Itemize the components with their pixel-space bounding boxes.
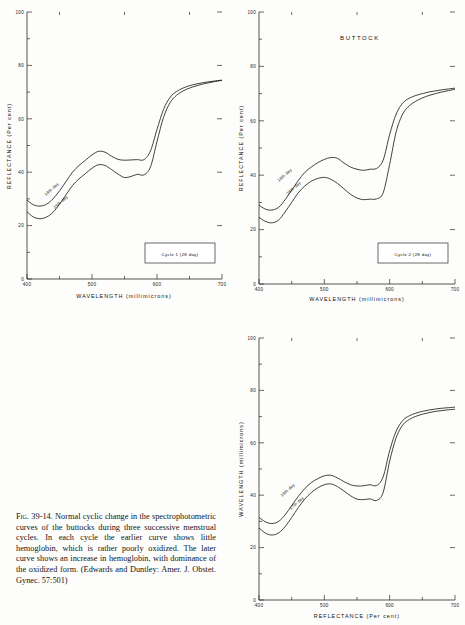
plot-frame xyxy=(259,338,455,600)
x-tick-label: 500 xyxy=(320,287,329,292)
chart-panel-cycle-1: 020406080100 400500600700 WAVELENGTH (mi… xyxy=(0,0,232,312)
curve-25th-day xyxy=(259,89,455,223)
y-axis-title: WAVELENGTH (millimicrons) xyxy=(238,421,244,516)
legend-label: Cycle 1 (28 day) xyxy=(162,252,199,257)
x-tick-label: 700 xyxy=(451,287,460,292)
x-tick-label: 600 xyxy=(385,287,394,292)
y-axis-title: REFLECTANCE (Per cent) xyxy=(238,105,244,191)
y-tick-label: 80 xyxy=(18,63,24,68)
legend-label: Cycle 2 (28 day) xyxy=(395,252,432,257)
x-tick-label: 600 xyxy=(153,282,162,287)
y-tick-label: 40 xyxy=(250,493,256,498)
y-tick-label: 100 xyxy=(15,10,24,15)
y-tick-label: 0 xyxy=(253,598,256,603)
curve-labels: 18th day17th day xyxy=(279,482,305,511)
curve-25th-day xyxy=(27,80,222,218)
y-axis-ticks xyxy=(27,12,222,279)
chart-svg-cycle-3: 020406080100 400500600700 REFLECTANCE (P… xyxy=(232,312,465,625)
y-tick-label: 60 xyxy=(250,119,256,124)
y-tick-label: 100 xyxy=(247,10,256,15)
curve-labels: 18th day25th day xyxy=(276,167,302,196)
x-tick-label: 700 xyxy=(218,282,227,287)
y-tick-label: 80 xyxy=(250,64,256,69)
x-axis-title: WAVELENGTH (millimicrons) xyxy=(76,293,171,299)
y-tick-label: 60 xyxy=(18,117,24,122)
x-tick-label: 400 xyxy=(255,287,264,292)
data-curves xyxy=(259,88,455,223)
x-tick-label: 600 xyxy=(385,603,394,608)
x-tick-label: 700 xyxy=(451,603,460,608)
legend-box: Cycle 2 (28 day) xyxy=(378,243,448,263)
x-axis-ticks xyxy=(259,338,455,600)
y-tick-label: 20 xyxy=(250,545,256,550)
x-axis-tick-labels: 400500600700 xyxy=(255,287,460,292)
data-curves xyxy=(259,407,455,535)
legend-box: Cycle 1 (28 day) xyxy=(145,243,215,263)
chart-panel-cycle-2: 020406080100 400500600700 WAVELENGTH (mi… xyxy=(232,0,465,312)
panel-title: BUTTOCK xyxy=(340,35,380,41)
figure-number: Fig. 39-14. xyxy=(16,512,53,521)
curve-label-17th-day: 17th day xyxy=(288,495,305,511)
y-axis-tick-labels: 020406080100 xyxy=(15,10,24,282)
x-axis-ticks xyxy=(27,12,222,279)
chart-panel-cycle-3: 020406080100 400500600700 REFLECTANCE (P… xyxy=(232,312,465,625)
y-axis-tick-labels: 020406080100 xyxy=(247,10,256,287)
x-tick-label: 500 xyxy=(320,603,329,608)
y-axis-tick-labels: 020406080100 xyxy=(247,336,256,603)
x-axis-tick-labels: 400500600700 xyxy=(255,603,460,608)
y-tick-label: 20 xyxy=(250,227,256,232)
curve-label-18th-day: 18th day xyxy=(279,482,296,498)
x-axis-title: WAVELENGTH (millimicrons) xyxy=(309,296,404,302)
y-axis-title: REFLECTANCE (Per cent) xyxy=(6,103,12,189)
y-tick-label: 40 xyxy=(18,170,24,175)
x-tick-label: 400 xyxy=(23,282,32,287)
y-tick-label: 40 xyxy=(250,173,256,178)
y-tick-label: 0 xyxy=(253,282,256,287)
y-tick-label: 20 xyxy=(18,223,24,228)
data-curves xyxy=(27,80,222,219)
figure-caption: Fig. 39-14. Normal cyclic change in the … xyxy=(16,512,216,586)
chart-svg-cycle-2: 020406080100 400500600700 WAVELENGTH (mi… xyxy=(232,0,465,312)
y-tick-label: 100 xyxy=(247,336,256,341)
y-tick-label: 60 xyxy=(250,441,256,446)
plot-frame xyxy=(27,12,222,279)
y-axis-ticks xyxy=(259,338,455,600)
curve-17th-day xyxy=(259,409,455,535)
curve-label-18th-day: 18th day xyxy=(276,167,293,183)
curve-label-18th-day: 18th day xyxy=(43,181,60,197)
curve-label-25th-day: 25th day xyxy=(285,180,302,196)
x-axis-title: REFLECTANCE (Per cent) xyxy=(314,613,400,619)
x-tick-label: 400 xyxy=(255,603,264,608)
chart-svg-cycle-1: 020406080100 400500600700 WAVELENGTH (mi… xyxy=(0,0,232,312)
curve-label-25th-day: 25th day xyxy=(52,194,69,210)
figure-caption-text: Normal cyclic change in the spectrophoto… xyxy=(16,512,216,585)
y-tick-label: 80 xyxy=(250,388,256,393)
x-tick-label: 500 xyxy=(88,282,97,287)
x-axis-tick-labels: 400500600700 xyxy=(23,282,227,287)
y-tick-label: 0 xyxy=(21,277,24,282)
